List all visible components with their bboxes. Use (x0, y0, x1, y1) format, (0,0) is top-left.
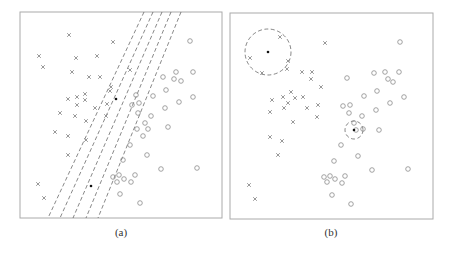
cross-marker (286, 101, 290, 105)
cross-marker (105, 102, 109, 106)
cross-marker (316, 103, 320, 107)
cross-marker (323, 41, 327, 45)
cross-marker (300, 70, 304, 74)
circle-marker (115, 180, 120, 185)
circle-marker (360, 114, 365, 119)
circle-marker (130, 103, 135, 108)
circle-marker (137, 101, 142, 106)
cross-marker (310, 70, 314, 74)
circle-marker (122, 177, 127, 182)
circle-marker (166, 125, 171, 130)
cross-marker (248, 56, 252, 60)
circle-marker (391, 80, 396, 85)
cross-marker (83, 98, 87, 102)
circle-marker (332, 159, 337, 164)
cross-marker (280, 139, 284, 143)
circle-marker (188, 39, 193, 44)
caption-a: (a) (101, 226, 141, 238)
circle-marker (362, 94, 367, 99)
cross-marker (66, 153, 70, 157)
circle-marker (343, 174, 348, 179)
cross-marker (289, 90, 293, 94)
cross-marker (98, 75, 102, 79)
cross-marker (41, 65, 45, 69)
circle-marker (141, 134, 146, 139)
cross-marker (270, 98, 274, 102)
cross-marker (301, 95, 305, 99)
cross-marker (278, 35, 282, 39)
cross-marker (268, 110, 272, 114)
query-point (115, 98, 118, 101)
cross-marker (67, 33, 71, 37)
circle-marker (117, 173, 122, 178)
cross-marker (66, 97, 70, 101)
circle-marker (179, 79, 184, 84)
cross-marker (305, 106, 309, 110)
circle-marker (352, 121, 357, 126)
cross-marker (58, 111, 62, 115)
cross-marker (285, 67, 289, 71)
circle-marker (333, 177, 338, 182)
circle-marker (177, 100, 182, 105)
circle-marker (383, 70, 388, 75)
cross-marker (276, 153, 280, 157)
circle-marker (377, 128, 382, 133)
cross-marker (84, 138, 88, 142)
cross-marker (109, 85, 113, 89)
cross-marker (75, 103, 79, 107)
cross-marker (315, 115, 319, 119)
panel-frame (230, 13, 433, 219)
circle-marker (195, 166, 200, 171)
circle-marker (164, 88, 169, 93)
circle-marker (172, 77, 177, 82)
panel-a (20, 12, 222, 218)
decision-line (48, 12, 144, 218)
cross-marker (70, 70, 74, 74)
cross-marker (95, 54, 99, 58)
circle-marker (349, 202, 354, 207)
query-point (353, 129, 356, 132)
cross-marker (42, 196, 46, 200)
cross-marker (253, 197, 257, 201)
circle-marker (151, 94, 156, 99)
caption-b: (b) (311, 226, 351, 238)
circle-marker (174, 70, 179, 75)
circle-marker (128, 143, 133, 148)
circle-marker (348, 103, 353, 108)
decision-line (86, 12, 171, 218)
circle-marker (398, 40, 403, 45)
cross-marker (75, 95, 79, 99)
circle-marker (370, 168, 375, 173)
circle-marker (129, 180, 134, 185)
circle-marker (143, 121, 148, 126)
circle-marker (136, 111, 141, 116)
circle-marker (118, 192, 123, 197)
panel-b (230, 13, 433, 219)
cross-marker (319, 85, 323, 89)
cross-marker (73, 114, 77, 118)
circle-marker (339, 143, 344, 148)
circle-marker (191, 95, 196, 100)
circle-marker (145, 153, 150, 158)
cross-marker (83, 92, 87, 96)
circle-marker (374, 108, 379, 113)
cross-marker (87, 75, 91, 79)
circle-marker (133, 173, 138, 178)
circle-marker (345, 76, 350, 81)
cross-marker (268, 135, 272, 139)
cross-marker (128, 68, 132, 72)
circle-marker (406, 167, 411, 172)
circle-marker (138, 201, 143, 206)
circle-marker (402, 95, 407, 100)
circle-marker (191, 70, 196, 75)
cross-marker (36, 182, 40, 186)
cross-marker (66, 134, 70, 138)
cross-marker (108, 89, 112, 93)
circle-marker (356, 154, 361, 159)
circle-marker (386, 77, 391, 82)
cross-marker (309, 77, 313, 81)
circle-marker (163, 106, 168, 111)
circle-marker (347, 111, 352, 116)
circle-marker (325, 180, 330, 185)
cross-marker (74, 56, 78, 60)
